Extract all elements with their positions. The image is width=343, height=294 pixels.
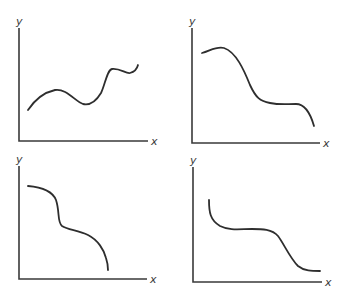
curve [209,200,320,271]
axes [19,166,147,279]
x-axis-label: x [150,135,158,148]
graph-bottom-right: y x [189,154,332,289]
curve [28,186,108,270]
x-axis-label: x [324,276,332,289]
y-axis-label: y [15,15,23,28]
curve [28,65,138,110]
x-axis-label: x [322,137,330,150]
x-axis-label: x [149,273,157,286]
y-axis-label: y [188,15,196,28]
graph-top-right: y x [188,15,330,150]
axes [193,167,322,282]
curve [202,48,314,126]
graph-top-left: y x [15,15,158,148]
axes [19,28,148,141]
y-axis-label: y [15,153,23,166]
four-graphs-diagram: y x y x y x y x [0,0,343,294]
graph-bottom-left: y x [15,153,157,286]
y-axis-label: y [189,154,197,167]
axes [192,28,320,143]
